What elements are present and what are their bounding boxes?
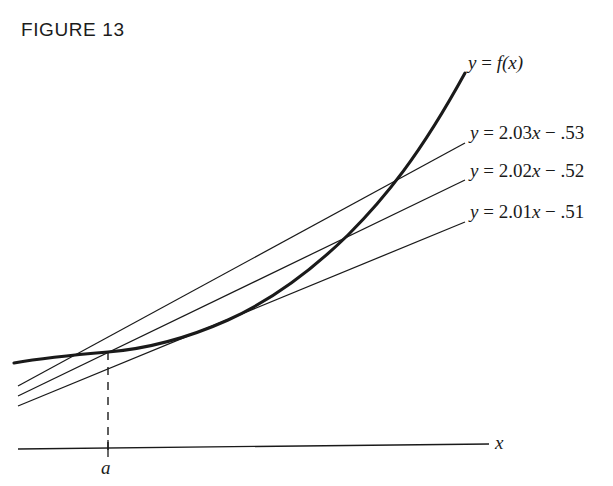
label-curve-eq: =: [476, 52, 496, 73]
label-t201-intercept: .51: [561, 201, 585, 222]
label-t202-sign: −: [540, 160, 560, 181]
label-t203-sign: −: [540, 122, 560, 143]
label-tangent-201-equation: y = 2.01x − .51: [470, 201, 584, 223]
function-curve: [14, 73, 465, 363]
tangency-point-label-a: a: [101, 457, 111, 479]
label-tangent-202-equation: y = 2.02x − .52: [470, 160, 584, 182]
label-t201-eq: =: [478, 201, 498, 222]
label-curve-equation: y = f(x): [468, 52, 523, 74]
label-t203-slope: 2.03: [499, 122, 532, 143]
x-axis-label: x: [495, 432, 503, 454]
label-curve-arg: (x): [502, 52, 523, 73]
label-t202-slope: 2.02: [499, 160, 532, 181]
label-tangent-203-equation: y = 2.03x − .53: [470, 122, 584, 144]
label-t201-sign: −: [540, 201, 560, 222]
label-t202-eq: =: [478, 160, 498, 181]
label-t201-slope: 2.01: [499, 201, 532, 222]
label-t202-intercept: .52: [561, 160, 585, 181]
label-t203-eq: =: [478, 122, 498, 143]
figure-container: FIGURE 13 y = f(x) y = 2.03x − .53 y = 2…: [0, 0, 613, 486]
x-axis-line: [18, 444, 489, 449]
label-t203-intercept: .53: [561, 122, 585, 143]
tangent-line-202: [18, 180, 465, 396]
